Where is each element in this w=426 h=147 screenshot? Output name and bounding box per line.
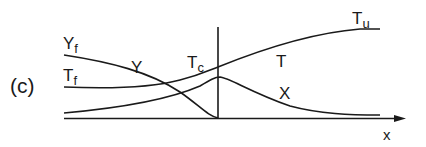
x-axis-arrow-icon [394,115,406,122]
label-X: X [279,84,290,103]
label-T: T [276,52,286,71]
axis-label-x: x [383,126,391,143]
label-Tc: Tc [187,53,204,75]
panel-label: (c) [10,74,35,97]
label-Tf: Tf [63,66,77,88]
flame-profile-diagram: (c) Yf Tf Tc Tu Y T X x [0,0,426,147]
label-Tu: Tu [352,9,370,31]
T-curve [64,29,380,88]
label-Y: Y [131,58,142,77]
X-curve [64,77,380,115]
label-Yf: Yf [63,34,78,56]
